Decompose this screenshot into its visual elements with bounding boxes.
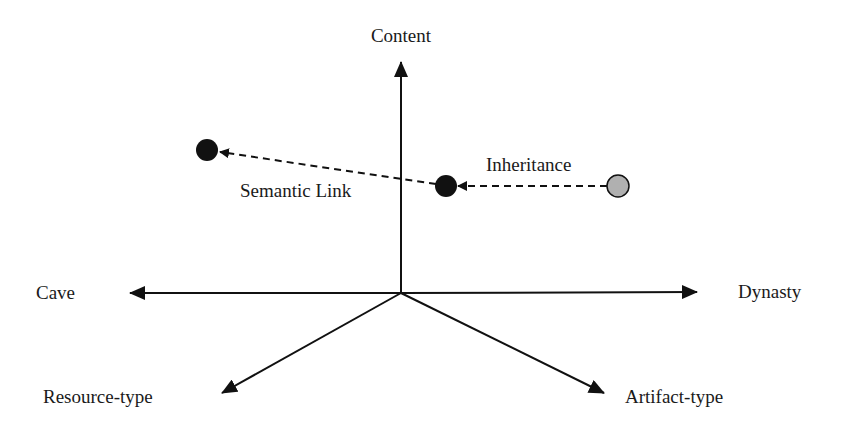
node-right (607, 175, 629, 197)
resource-type-label: Resource-type (43, 386, 153, 407)
cave-label: Cave (36, 282, 75, 303)
semantic-link-label: Semantic Link (240, 180, 352, 201)
artifact-type-label: Artifact-type (625, 386, 723, 407)
content-label: Content (371, 25, 432, 46)
node-left (196, 139, 218, 161)
artifact-type-axis (401, 293, 604, 393)
dynasty-label: Dynasty (738, 281, 802, 302)
resource-type-axis (222, 293, 401, 393)
node-center (435, 175, 457, 197)
axis-diagram: Content Cave Dynasty Resource-type Artif… (0, 0, 851, 438)
inheritance-label: Inheritance (486, 154, 571, 175)
dynasty-axis (401, 292, 697, 293)
